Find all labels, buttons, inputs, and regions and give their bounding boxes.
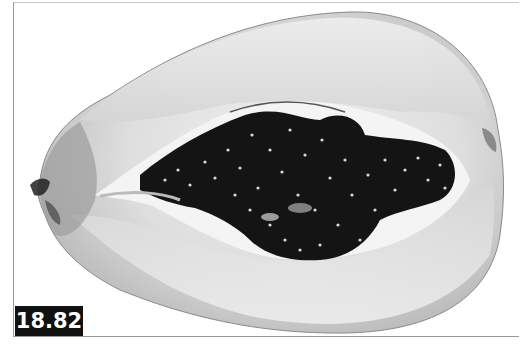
figure-label: 18.82 [15, 306, 83, 336]
